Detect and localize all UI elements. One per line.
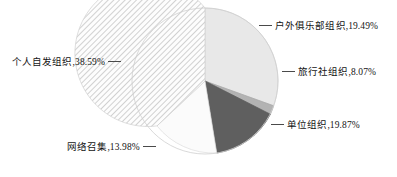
pie-label-travel-agency-text: 旅行社组织,8.07% (298, 67, 376, 77)
leader-line-outdoor-club (259, 25, 272, 26)
pie-label-outdoor-club-text: 户外俱乐部组织,19.49% (275, 21, 378, 31)
pie-label-travel-agency: 旅行社组织,8.07% (279, 66, 376, 77)
leader-line-work-unit (271, 124, 284, 125)
pie-label-work-unit: 单位组织,19.87% (268, 119, 360, 130)
pie-chart: 户外俱乐部组织,19.49% 旅行社组织,8.07% 单位组织,19.87% 网… (0, 0, 397, 177)
leader-line-personal-spontaneous (108, 61, 121, 62)
pie-label-online-gathering-text: 网络召集,13.98% (67, 142, 140, 152)
pie-label-personal-spontaneous-text: 个人自发组织,38.59% (12, 57, 105, 67)
leader-line-travel-agency (282, 71, 295, 72)
pie-label-work-unit-text: 单位组织,19.87% (287, 120, 360, 130)
pie-label-online-gathering: 网络召集,13.98% (67, 141, 159, 152)
leader-line-online-gathering (143, 146, 156, 147)
pie-label-personal-spontaneous: 个人自发组织,38.59% (12, 56, 124, 67)
pie-label-outdoor-club: 户外俱乐部组织,19.49% (256, 20, 378, 31)
